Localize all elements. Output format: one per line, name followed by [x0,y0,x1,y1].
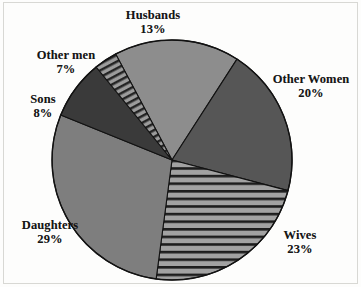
slice-label-other-women: Other Women 20% [263,72,359,100]
slice-label-other-women-percent: 20% [263,86,359,100]
slice-label-daughters: Daughters 29% [2,218,98,246]
slice-label-other-men-percent: 7% [16,62,116,76]
slice-label-sons-name: Sons [30,92,55,106]
slice-label-sons-percent: 8% [12,106,74,120]
pie-chart-page: Husbands 13% Other Women 20% Wives 23% D… [0,0,361,287]
slice-label-wives-percent: 23% [262,242,338,256]
slice-label-husbands-percent: 13% [98,22,208,36]
slice-label-other-women-name: Other Women [273,72,350,86]
pie-chart: Husbands 13% Other Women 20% Wives 23% D… [0,0,361,287]
slice-label-sons: Sons 8% [12,92,74,120]
slice-label-wives-name: Wives [284,228,317,242]
slice-label-husbands-name: Husbands [126,8,180,22]
slice-label-daughters-percent: 29% [2,232,98,246]
slice-label-other-men: Other men 7% [16,48,116,76]
slice-label-daughters-name: Daughters [22,218,78,232]
slice-label-wives: Wives 23% [262,228,338,256]
slice-label-other-men-name: Other men [37,48,96,62]
slice-label-husbands: Husbands 13% [98,8,208,36]
